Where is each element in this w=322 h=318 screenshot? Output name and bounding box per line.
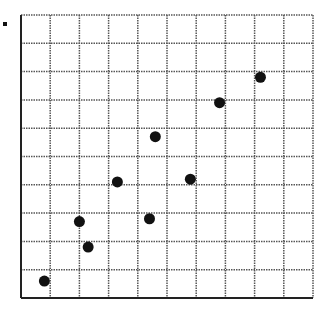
data-point — [185, 174, 196, 185]
data-point — [144, 213, 155, 224]
data-points — [39, 72, 266, 287]
data-point — [255, 72, 266, 83]
data-point — [214, 97, 225, 108]
data-point — [112, 176, 123, 187]
grid-lines — [21, 15, 313, 298]
scatter-plot — [0, 0, 322, 318]
data-point — [74, 216, 85, 227]
data-point — [39, 276, 50, 287]
data-point — [150, 131, 161, 142]
data-point — [83, 242, 94, 253]
